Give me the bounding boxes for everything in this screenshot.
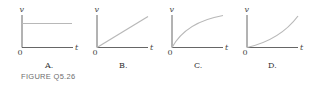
- t-axis-label: t: [75, 43, 79, 52]
- panel-d: v t 0 D.: [243, 5, 305, 70]
- origin-label: 0: [168, 48, 173, 57]
- panel-b: v t 0 B.: [93, 5, 155, 70]
- v-axis-label: v: [95, 5, 100, 14]
- origin-label: 0: [93, 48, 98, 57]
- origin-label: 0: [18, 48, 23, 57]
- t-axis-label: t: [150, 43, 154, 52]
- panel-c: v t 0 C.: [168, 5, 230, 70]
- panel-a: v t 0 A.: [18, 5, 80, 70]
- origin-label: 0: [243, 48, 248, 57]
- v-axis-label: v: [20, 5, 25, 14]
- panel-label: C.: [194, 61, 202, 70]
- v-axis-label: v: [170, 5, 175, 14]
- t-axis-label: t: [300, 43, 304, 52]
- v-axis-label: v: [245, 5, 250, 14]
- panel-label: A.: [44, 61, 53, 70]
- velocity-curve: [97, 17, 148, 48]
- panel-label: B.: [119, 61, 127, 70]
- figure-caption: FIGURE Q5.26: [21, 72, 75, 81]
- velocity-curve: [172, 16, 223, 48]
- velocity-curve: [247, 16, 298, 48]
- t-axis-label: t: [225, 43, 229, 52]
- panel-label: D.: [268, 61, 277, 70]
